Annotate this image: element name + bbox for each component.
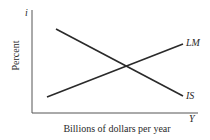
y-axis-symbol: i xyxy=(25,8,28,18)
y-axis-label: Percent xyxy=(10,36,21,76)
lm-curve xyxy=(47,44,183,97)
lm-label: LM xyxy=(186,38,200,48)
x-axis-label: Billions of dollars per year xyxy=(0,123,210,134)
is-label: IS xyxy=(186,91,194,101)
is-lm-diagram xyxy=(0,0,210,140)
